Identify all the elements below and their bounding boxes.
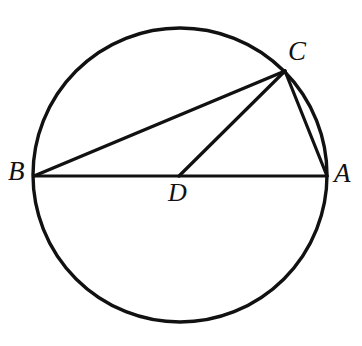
point-label-B: B [8,158,25,185]
point-label-D: D [168,180,187,206]
point-label-A: A [334,160,351,187]
segment-DC-radius [179,71,285,176]
point-label-C: C [288,38,306,65]
geometry-canvas [0,0,362,346]
segment-BC-chord [34,71,285,176]
segment-CA-chord [285,71,327,176]
geometry-diagram: C B A D [0,0,362,346]
